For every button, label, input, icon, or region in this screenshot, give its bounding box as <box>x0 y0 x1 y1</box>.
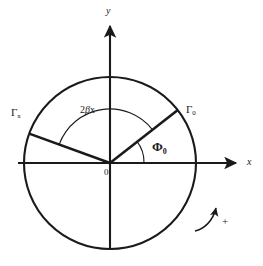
gamma-x-subscript: x <box>17 112 21 120</box>
rotation-sign-label: + <box>222 216 228 227</box>
y-axis-label: y <box>106 6 110 16</box>
x-axis-label: x <box>247 157 251 167</box>
phi-zero-label: Φ0 <box>152 140 167 153</box>
ray-gamma-x <box>29 134 110 163</box>
gamma-zero-subscript: 0 <box>192 109 196 117</box>
origin-label: 0 <box>104 168 109 177</box>
gamma-zero-label: Γ0 <box>186 104 196 115</box>
rotation-arrow <box>195 208 216 231</box>
arc-phi-zero <box>137 141 144 163</box>
two-beta-x-label: 2βx <box>80 105 95 115</box>
phi-zero-base: Φ <box>152 139 163 154</box>
phi-zero-subscript: 0 <box>163 147 167 156</box>
figure-container: y x 0 Γx Γ0 Φ0 2βx + <box>0 0 263 266</box>
arc-span-suffix: x <box>90 104 95 115</box>
gamma-x-label: Γx <box>11 107 21 118</box>
